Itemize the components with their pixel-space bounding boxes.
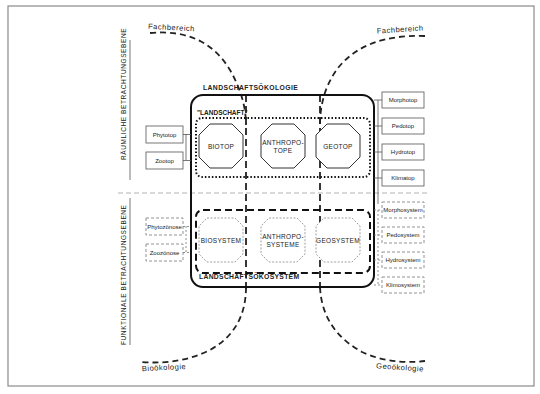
fachbereich-label-left: Fachbereich: [148, 22, 195, 33]
outer-frame: [8, 6, 534, 386]
right-box-morphosystem-label: Morphosystem: [383, 207, 422, 213]
right-box-pedotop: Pedotop: [374, 118, 424, 134]
landscape-ecology-diagram: RÄUMLICHE BETRACHTUNGSEBENE FUNKTIONALE …: [0, 0, 540, 394]
unit-biotop-label: BIOTOP: [208, 143, 234, 150]
left-box-phytoznose: Phytozönose: [146, 218, 191, 235]
right-box-pedotop-label: Pedotop: [392, 123, 415, 129]
fachbereich-arc-right: [320, 36, 425, 125]
landscape-ecology-title: LANDSCHAFTSÖKOLOGIE: [203, 83, 298, 91]
left-box-phytotop: Phytotop: [146, 126, 191, 143]
right-box-klimatop-label: Klimatop: [391, 175, 415, 181]
system-geosystem-label: GEOSYSTEM: [316, 237, 360, 244]
left-box-zooznose-label: Zoozönose: [150, 250, 180, 256]
left-box-zootop: Zootop: [146, 152, 191, 169]
right-box-pedosystem: Pedosystem: [374, 227, 424, 243]
right-box-hydrosystem-label: Hydrosystem: [385, 257, 420, 263]
biookologie-label: Bioökologie: [142, 362, 187, 373]
left-box-phytoznose-label: Phytozönose: [147, 224, 182, 230]
biookologie-arc: [142, 287, 246, 363]
unit-anthropo-octagon: [261, 124, 305, 168]
side-boxes: PhytotopZootopPhytozönoseZoozönoseMorpho…: [146, 92, 424, 293]
right-box-klimatop: Klimatop: [374, 170, 424, 186]
unit-anthropo-label: ANTHROPO-: [262, 139, 304, 146]
right-box-hydrotop-label: Hydrotop: [391, 149, 416, 155]
system-anthropo-octagon: [261, 218, 305, 262]
right-box-klimosystem-label: Klimosystem: [386, 282, 420, 288]
right-box-morphotop: Morphotop: [374, 92, 424, 108]
geookologie-label: Geoökologie: [376, 361, 424, 373]
left-box-zooznose: Zoozönose: [146, 244, 191, 261]
left-box-zootop-label: Zootop: [155, 158, 174, 164]
system-biosystem-label: BIOSYSTEM: [201, 237, 242, 244]
landschaft-label: "LANDSCHAFT": [197, 109, 248, 116]
right-box-pedosystem-label: Pedosystem: [386, 232, 419, 238]
right-box-hydrosystem: Hydrosystem: [374, 252, 424, 268]
system-anthropo-label-line2: SYSTEME: [266, 241, 300, 248]
left-box-phytotop-label: Phytotop: [153, 132, 177, 138]
right-box-klimosystem: Klimosystem: [374, 277, 424, 293]
fachbereich-label-right: Fachbereich: [377, 23, 424, 35]
upper-axis-label: RÄUMLICHE BETRACHTUNGSEBENE: [120, 28, 127, 160]
right-box-hydrotop: Hydrotop: [374, 144, 424, 160]
geookologie-arc: [320, 287, 425, 362]
system-anthropo-label: ANTHROPO-: [262, 233, 304, 240]
unit-anthropo-label-line2: TOPE: [274, 147, 293, 154]
lower-axis-label: FUNKTIONALE BETRACHTUNGSEBENE: [120, 204, 127, 345]
right-box-morphotop-label: Morphotop: [389, 97, 418, 103]
unit-geotop-label: GEOTOP: [323, 143, 353, 150]
right-box-morphosystem: Morphosystem: [374, 202, 424, 218]
